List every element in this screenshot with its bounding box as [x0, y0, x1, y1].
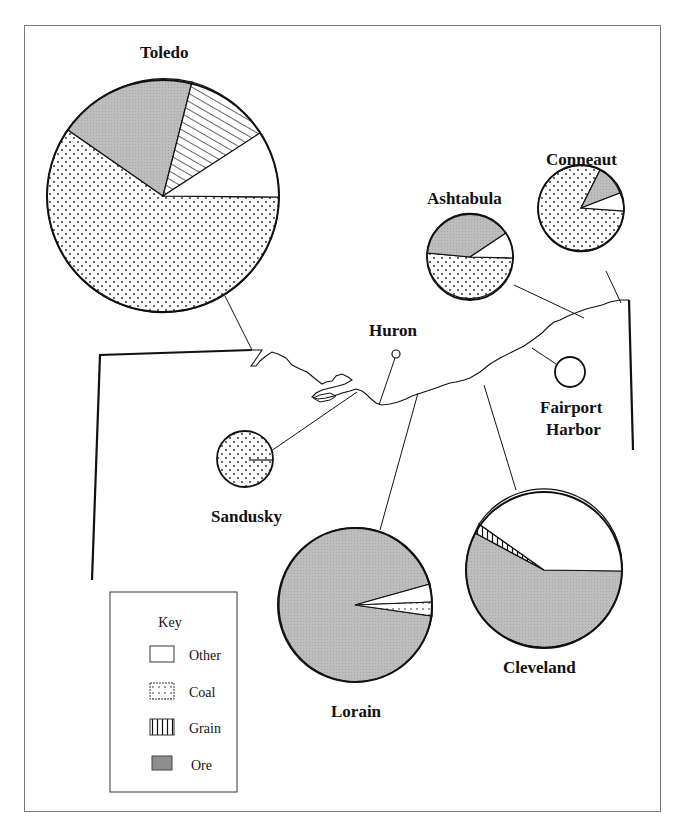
- port-label-ashtabula: Ashtabula: [427, 189, 502, 208]
- port-label-sandusky: Sandusky: [211, 507, 282, 526]
- port-label-cleveland: Cleveland: [503, 658, 576, 677]
- legend-label-coal: Coal: [189, 685, 216, 700]
- port-label-harbor: Harbor: [546, 420, 601, 439]
- port-label-fairport: Fairport: [540, 398, 603, 417]
- pie-lorain[interactable]: [278, 528, 432, 682]
- island: [313, 393, 336, 402]
- port-label-lorain: Lorain: [331, 702, 382, 721]
- pie-fairport-harbor[interactable]: [555, 357, 585, 387]
- legend-label-ore: Ore: [191, 758, 212, 773]
- legend-label-other: Other: [189, 648, 221, 663]
- pie-sandusky[interactable]: [217, 431, 273, 487]
- port-label-conneaut: Conneaut: [546, 150, 617, 169]
- pie-cleveland[interactable]: [466, 489, 622, 648]
- pie-huron[interactable]: [392, 350, 400, 358]
- pie-conneaut[interactable]: [538, 165, 624, 252]
- lake-erie-shoreline: [251, 300, 629, 405]
- legend-title: Key: [158, 615, 181, 630]
- port-label-toledo: Toledo: [140, 43, 189, 62]
- lake-erie-port-map: Toledo Sandusky Huron Lorain Cleveland F…: [0, 0, 674, 832]
- legend-label-grain: Grain: [189, 721, 221, 736]
- legend: Key Other Coal Grain Ore: [110, 592, 237, 792]
- legend-swatch-other: [150, 646, 174, 662]
- port-label-huron: Huron: [369, 321, 417, 340]
- legend-swatch-coal: [150, 683, 174, 699]
- pie-ashtabula[interactable]: [427, 213, 513, 300]
- pie-toledo[interactable]: [47, 79, 279, 313]
- legend-swatch-ore: [152, 756, 172, 770]
- legend-swatch-grain: [150, 719, 174, 735]
